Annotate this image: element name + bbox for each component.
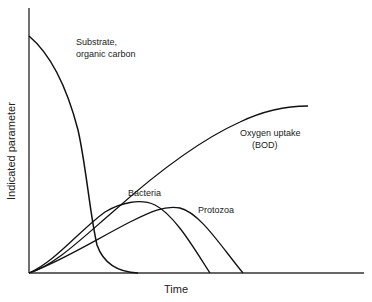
series-protozoa — [29, 207, 243, 273]
y-axis-label: Indicated parameter — [5, 102, 17, 200]
label-substrate-1: Substrate, — [76, 37, 117, 47]
label-protozoa: Protozoa — [198, 205, 234, 215]
label-bod-2: (BOD) — [252, 140, 278, 150]
chart: Substrate, organic carbon Oxygen uptake … — [0, 0, 372, 302]
series-bacteria — [29, 202, 210, 273]
label-bod-1: Oxygen uptake — [240, 128, 301, 138]
label-bacteria: Bacteria — [128, 188, 161, 198]
x-axis-label: Time — [164, 283, 188, 295]
label-substrate-2: organic carbon — [76, 49, 136, 59]
